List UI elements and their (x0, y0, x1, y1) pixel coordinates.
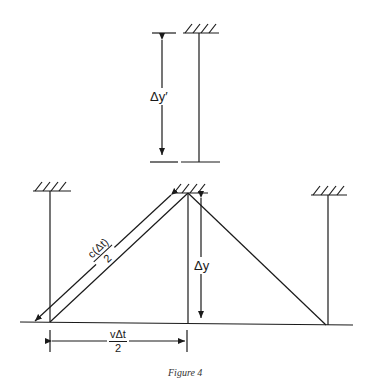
light-path-up (50, 193, 188, 322)
middle-clock (172, 184, 208, 323)
diagram-lines (0, 0, 370, 387)
base-numerator: vΔt (109, 329, 127, 342)
hatch-icon (185, 24, 216, 33)
left-clock (33, 182, 71, 322)
base-denominator: 2 (115, 342, 121, 354)
hatch-icon (313, 186, 344, 195)
figure-caption: Figure 4 (168, 367, 202, 378)
hatch-icon (174, 184, 205, 193)
figure-4-diagram: Δy′ Δy c(Δt) 2 vΔt 2 Figure 4 (0, 0, 370, 387)
delta-y-prime-label: Δy′ (150, 88, 168, 105)
ground-line (20, 322, 353, 325)
delta-y-label: Δy (194, 257, 209, 274)
base-label: vΔt 2 (107, 328, 129, 354)
hatch-icon (35, 182, 66, 191)
right-clock (311, 186, 347, 325)
